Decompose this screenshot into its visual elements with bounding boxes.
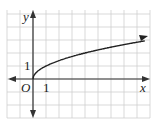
sqrt-graph: y x O 1 1	[0, 0, 153, 124]
origin-label: O	[21, 80, 31, 95]
x-axis-label: x	[139, 80, 146, 95]
sqrt-curve	[33, 41, 145, 79]
x-tick-label: 1	[43, 80, 50, 95]
y-axis	[30, 10, 36, 118]
y-axis-label: y	[21, 9, 29, 24]
y-tick-label: 1	[24, 58, 31, 73]
